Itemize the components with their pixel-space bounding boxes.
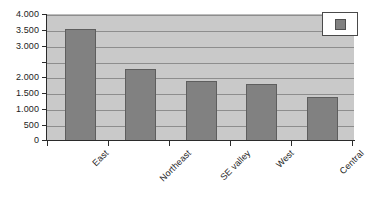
bar-se-valley bbox=[186, 81, 217, 141]
x-axis-labels: East Northeast SE valley West Central bbox=[0, 140, 365, 198]
y-tick-label: 1.000 bbox=[16, 105, 39, 114]
y-tick-label: 4.000 bbox=[16, 10, 39, 19]
chart-legend bbox=[322, 12, 358, 36]
bar-northeast bbox=[125, 69, 156, 141]
y-tick-label: 1.500 bbox=[16, 89, 39, 98]
bar-east bbox=[65, 29, 96, 141]
y-tick-label: 3.000 bbox=[16, 42, 39, 51]
bar-chart-figure: 4.000 3.500 3.000 2.000 1.500 1.000 500 … bbox=[0, 0, 365, 198]
y-tick-label: 2.000 bbox=[16, 73, 39, 82]
y-tick-label: 3.500 bbox=[16, 26, 39, 35]
bar-central bbox=[307, 97, 338, 141]
x-tick-label-northeast: Northeast bbox=[158, 148, 193, 183]
y-tick-label: 500 bbox=[24, 121, 39, 130]
plot-area bbox=[47, 14, 354, 141]
x-tick-label-central: Central bbox=[338, 148, 365, 176]
bars-layer bbox=[47, 15, 354, 141]
bar-west bbox=[246, 84, 277, 141]
x-tick-label-east: East bbox=[90, 148, 110, 168]
x-tick-label-west: West bbox=[274, 148, 296, 170]
series-color-swatch-icon bbox=[335, 19, 346, 30]
x-tick-label-se-valley: SE valley bbox=[218, 148, 252, 182]
